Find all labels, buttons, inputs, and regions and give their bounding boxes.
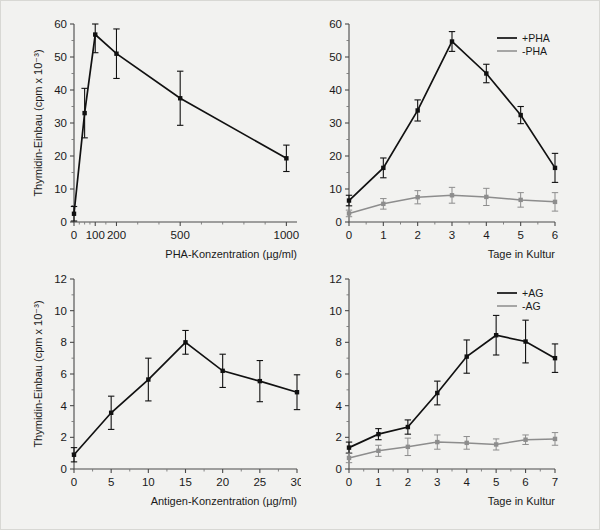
data-point [484, 71, 488, 75]
y-axis-title: Thymidin-Einbau (cpm x 10⁻³) [32, 49, 44, 196]
series-PHA [71, 24, 290, 221]
data-point [220, 369, 224, 373]
data-point [435, 440, 439, 444]
y-axis-title: Thymidin-Einbau (cpm x 10⁻³) [32, 300, 44, 447]
y-tick-label: 10 [329, 305, 342, 317]
chart-panel-bottom-left: 024681012051015202530Antigen-Konzentrati… [1, 266, 301, 530]
data-point [284, 156, 288, 160]
data-point [415, 195, 419, 199]
x-axis-ticks-bottom-left: 051015202530 [71, 469, 301, 488]
legend-label: -PHA [522, 45, 547, 57]
data-point [553, 356, 557, 360]
y-tick-label: 0 [336, 216, 342, 228]
x-tick-label: 15 [179, 476, 192, 488]
chart-svg-bottom-right: 02468101201234567Tage in Kultur+AG-AG [301, 266, 600, 530]
y-tick-label: 0 [61, 216, 67, 228]
y-tick-label: 0 [61, 463, 67, 475]
x-tick-label: 10 [142, 476, 155, 488]
data-point [114, 52, 118, 56]
y-axis-ticks-bottom-left: 024681012 [54, 273, 74, 475]
chart-panel-bottom-right: 02468101201234567Tage in Kultur+AG-AG [301, 266, 600, 530]
data-point [435, 391, 439, 395]
series-AG [346, 433, 558, 463]
chart-panel-top-left: 010203040506001002005001000PHA-Konzentra… [1, 1, 301, 266]
x-tick-label: 4 [483, 229, 490, 241]
y-tick-label: 0 [336, 463, 342, 475]
data-point [146, 377, 150, 381]
x-tick-label: 6 [522, 476, 528, 488]
chart-svg-top-right: 01020304050600123456Tage in Kultur+PHA-P… [301, 1, 600, 266]
series-line [74, 342, 297, 454]
series-line [349, 335, 555, 447]
x-tick-label: 0 [346, 476, 352, 488]
x-tick-label: 1 [380, 229, 386, 241]
data-point [406, 425, 410, 429]
figure-container: 010203040506001002005001000PHA-Konzentra… [0, 0, 600, 530]
data-point [178, 96, 182, 100]
data-point [258, 379, 262, 383]
x-tick-label: 2 [414, 229, 420, 241]
y-axis-ticks-top-right: 0102030405060 [329, 18, 349, 228]
axes-bottom-left [74, 279, 297, 469]
data-point [494, 333, 498, 337]
x-axis-ticks-top-right: 0123456 [346, 222, 558, 241]
x-tick-label: 7 [552, 476, 558, 488]
data-point [523, 339, 527, 343]
y-tick-label: 6 [336, 368, 342, 380]
y-tick-label: 30 [329, 117, 342, 129]
y-tick-label: 4 [61, 400, 68, 412]
x-axis-ticks-top-left: 01002005001000 [71, 222, 299, 241]
x-axis-title: Tage in Kultur [488, 495, 556, 507]
data-point [523, 438, 527, 442]
legend-label: -AG [522, 300, 541, 312]
x-tick-label: 3 [449, 229, 455, 241]
data-point [406, 445, 410, 449]
y-tick-label: 50 [54, 51, 67, 63]
y-tick-label: 50 [329, 51, 342, 63]
y-tick-label: 10 [54, 183, 67, 195]
chart-panel-top-right: 01020304050600123456Tage in Kultur+PHA-P… [301, 1, 600, 266]
x-axis-title: PHA-Konzentration (µg/ml) [165, 248, 297, 260]
x-tick-label: 2 [405, 476, 411, 488]
data-point [553, 200, 557, 204]
axes-top-left [74, 24, 297, 222]
data-point [109, 411, 113, 415]
x-tick-label: 100 [86, 229, 105, 241]
y-tick-label: 40 [329, 84, 342, 96]
y-tick-label: 20 [54, 150, 67, 162]
data-point [376, 432, 380, 436]
data-point [72, 212, 76, 216]
data-point [465, 441, 469, 445]
x-tick-label: 0 [71, 229, 77, 241]
series-AG [346, 315, 558, 453]
x-tick-label: 200 [107, 229, 126, 241]
data-point [82, 111, 86, 115]
x-axis-ticks-bottom-right: 01234567 [346, 469, 558, 488]
data-point [450, 39, 454, 43]
data-point [347, 198, 351, 202]
data-point [415, 108, 419, 112]
x-tick-label: 1000 [274, 229, 300, 241]
legend-label: +AG [522, 287, 543, 299]
y-tick-label: 8 [61, 336, 67, 348]
x-tick-label: 500 [171, 229, 190, 241]
data-point [376, 449, 380, 453]
legend-label: +PHA [522, 32, 550, 44]
y-tick-label: 60 [54, 18, 67, 30]
y-axis-ticks-top-left: 0102030405060 [54, 18, 74, 228]
data-point [93, 32, 97, 36]
data-point [72, 453, 76, 457]
x-tick-label: 3 [434, 476, 440, 488]
x-tick-label: 1 [375, 476, 381, 488]
chart-svg-top-left: 010203040506001002005001000PHA-Konzentra… [1, 1, 301, 266]
data-point [494, 442, 498, 446]
x-tick-label: 5 [108, 476, 114, 488]
y-tick-label: 40 [54, 84, 67, 96]
data-point [381, 202, 385, 206]
legend-top-right: +PHA-PHA [497, 32, 550, 57]
y-tick-label: 10 [329, 183, 342, 195]
data-point [381, 166, 385, 170]
y-tick-label: 8 [336, 336, 342, 348]
series-PHA [346, 32, 558, 206]
y-tick-label: 4 [336, 400, 343, 412]
